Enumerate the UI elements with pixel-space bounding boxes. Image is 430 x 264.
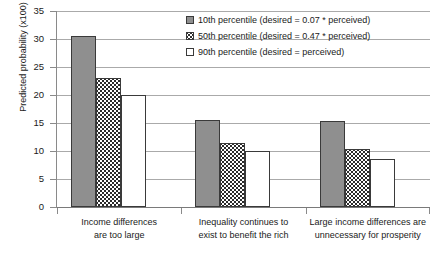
y-tick-mark	[50, 39, 57, 40]
y-tick-label: 30	[4, 34, 44, 44]
y-tick-mark	[50, 95, 57, 96]
bar-chart: Predicted probability (x100) 10th percen…	[0, 0, 430, 264]
x-category-label-line: unnecessary for prosperity	[306, 229, 430, 242]
y-tick-label: 25	[4, 62, 44, 72]
legend-swatch-icon	[186, 32, 194, 40]
x-category-label-line: Income differences	[57, 216, 181, 229]
y-tick-label: 35	[4, 6, 44, 16]
y-tick-mark	[50, 11, 57, 12]
legend-item-label: 50th percentile (desired = 0.47 * percei…	[198, 31, 370, 41]
axis-baseline	[57, 207, 430, 208]
bar	[96, 78, 121, 207]
y-tick-mark	[50, 123, 57, 124]
y-tick-mark	[50, 207, 57, 208]
x-category-label: Large income differences areunnecessary …	[306, 216, 430, 241]
bar	[245, 151, 270, 207]
legend-swatch-icon	[186, 48, 194, 56]
y-tick-label: 20	[4, 90, 44, 100]
x-category-label: Inequality continues toexist to benefit …	[181, 216, 305, 241]
y-tick-label: 15	[4, 118, 44, 128]
legend-item: 50th percentile (desired = 0.47 * percei…	[186, 30, 370, 41]
x-category-label-line: exist to benefit the rich	[181, 229, 305, 242]
y-tick-label: 5	[4, 174, 44, 184]
y-tick-mark	[50, 179, 57, 180]
y-tick-mark	[50, 67, 57, 68]
chart-legend: 10th percentile (desired = 0.07 * percei…	[186, 14, 370, 57]
bar	[220, 143, 245, 207]
bar	[320, 121, 345, 207]
y-tick-mark	[50, 151, 57, 152]
axis-end-tick-left	[57, 208, 58, 214]
legend-item-label: 90th percentile (desired = perceived)	[198, 47, 344, 57]
x-category-label-line: are too large	[57, 229, 181, 242]
bar	[370, 159, 395, 207]
bar	[345, 149, 370, 207]
bar-group	[57, 11, 181, 207]
x-category-label: Income differencesare too large	[57, 216, 181, 241]
x-category-label-line: Inequality continues to	[181, 216, 305, 229]
legend-swatch-icon	[186, 16, 194, 24]
bar	[121, 95, 146, 207]
legend-item: 10th percentile (desired = 0.07 * percei…	[186, 14, 370, 25]
y-tick-label: 10	[4, 146, 44, 156]
x-category-label-line: Large income differences are	[306, 216, 430, 229]
category-separator-tick	[181, 208, 182, 214]
legend-item-label: 10th percentile (desired = 0.07 * percei…	[198, 15, 370, 25]
bar	[195, 120, 220, 207]
bar	[71, 36, 96, 207]
y-tick-label: 0	[4, 202, 44, 212]
legend-item: 90th percentile (desired = perceived)	[186, 46, 370, 57]
category-separator-tick	[306, 208, 307, 214]
